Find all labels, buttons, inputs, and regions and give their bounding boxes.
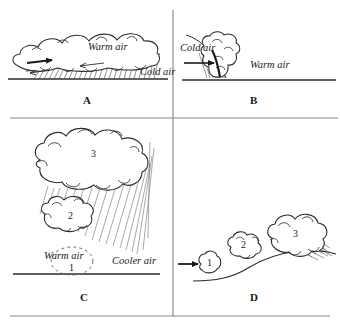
- panel-d-group: [178, 214, 336, 281]
- panel-b-label-warm-air: Warm air: [250, 59, 290, 70]
- panel-d-cloud-2-number: 2: [241, 239, 246, 250]
- panel-d-cloud-3-number: 3: [293, 228, 298, 239]
- panel-c-cloud-3: [35, 128, 148, 190]
- panel-a-letter: A: [83, 94, 91, 106]
- panel-c-cloud-2-number: 2: [68, 210, 73, 221]
- panel-d-cloud-1-number: 1: [207, 257, 212, 268]
- panel-c-group: [13, 128, 160, 275]
- panel-c-cloud-3-number: 3: [91, 148, 96, 159]
- panel-b-group: [182, 32, 336, 80]
- panel-c-label-cooler-air: Cooler air: [112, 255, 156, 266]
- panel-b-letter: B: [250, 94, 257, 106]
- weather-fronts-diagram: Warm air Cold air A Cold air Warm air B …: [0, 0, 340, 332]
- panel-a-label-cold-air: Cold air: [140, 66, 175, 77]
- panel-c-parcel-1-number: 1: [69, 262, 74, 273]
- panel-a-label-warm-air: Warm air: [88, 41, 128, 52]
- panel-b-cumulonimbus-cloud: [201, 32, 240, 77]
- diagram-canvas: [0, 0, 340, 332]
- panel-b-label-cold-air: Cold air: [180, 42, 215, 53]
- panel-d-letter: D: [250, 291, 258, 303]
- panel-c-label-warm-air: Warm air: [44, 250, 84, 261]
- panel-a-stratus-cloud: [13, 34, 160, 72]
- panel-c-letter: C: [80, 291, 88, 303]
